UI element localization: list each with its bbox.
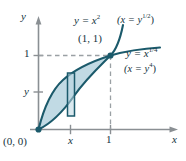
label-curve-fourth-root: y = x1/4: [126, 47, 157, 59]
point-one-one-marker: [107, 52, 113, 58]
label-curve-fourth-root-text: y = x: [126, 47, 149, 59]
label-curve-x-squared-exponent: 2: [97, 13, 100, 20]
label-inverse-sqrt-pre: (x = y: [117, 14, 142, 25]
y-axis-arrowhead: [36, 16, 42, 25]
y-axis-tick-label-one: 1: [24, 48, 30, 59]
label-curve-x-squared-inverse: (x = y1/2): [117, 13, 154, 25]
y-axis-label: y: [21, 11, 26, 22]
x-axis-arrowhead: [170, 127, 179, 133]
label-curve-fourth-root-inverse: (x = y4): [124, 62, 156, 74]
point-origin-marker: [35, 126, 41, 132]
x-axis-tick-label-variable: x: [68, 135, 73, 146]
x-axis-tick-label-one: 1: [106, 134, 112, 145]
label-inverse-quartic-post: ): [152, 63, 156, 74]
label-curve-fourth-root-exponent: 1/4: [149, 46, 158, 53]
y-axis-tick-label-variable: y: [24, 86, 29, 97]
label-point-one-one: (1, 1): [78, 33, 102, 44]
figure-canvas: y = x2 (x = y1/2) (1, 1) y = x1/4 (x = y…: [0, 0, 186, 161]
label-point-origin: (0, 0): [3, 136, 27, 147]
x-axis-label: x: [172, 134, 177, 145]
label-inverse-sqrt-post: ): [150, 14, 154, 25]
label-inverse-quartic-pre: (x = y: [124, 63, 149, 74]
representative-strip: [68, 73, 75, 116]
label-curve-x-squared-text: y = x: [74, 14, 97, 26]
label-curve-x-squared: y = x2: [74, 14, 100, 26]
